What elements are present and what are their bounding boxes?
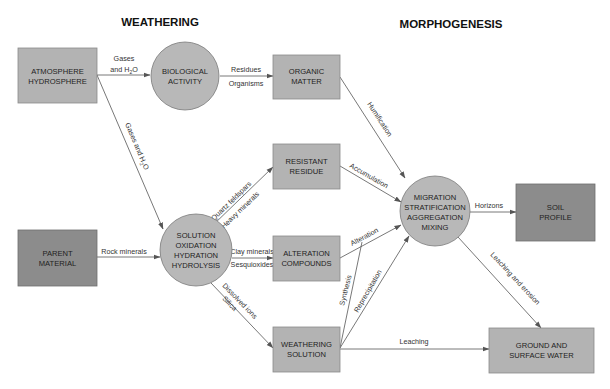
node-resistant-residue: RESISTANT RESIDUE <box>273 144 340 189</box>
svg-text:Gases: Gases <box>114 54 135 63</box>
svg-text:ORGANIC: ORGANIC <box>289 67 325 76</box>
svg-text:Humification: Humification <box>365 100 394 138</box>
node-parent-material: PARENT MATERIAL <box>18 230 97 286</box>
svg-text:ACTIVITY: ACTIVITY <box>168 77 202 86</box>
svg-text:SOIL: SOIL <box>547 203 564 212</box>
svg-text:WEATHERING: WEATHERING <box>281 340 332 349</box>
svg-text:SOLUTION: SOLUTION <box>287 350 326 359</box>
svg-text:Leaching: Leaching <box>399 337 428 346</box>
svg-text:PARENT: PARENT <box>42 249 73 258</box>
svg-text:and H2O: and H2O <box>110 65 138 75</box>
svg-text:HYDROSPHERE: HYDROSPHERE <box>28 77 87 86</box>
svg-text:PROFILE: PROFILE <box>539 213 572 222</box>
edge-solution-weathering-solution: Dissolved ions Silica <box>211 281 273 348</box>
node-morphogenesis-processes: MIGRATION STRATIFICATION AGGREGATION MIX… <box>400 176 470 246</box>
edge-resistant-migration: Accumulation <box>340 161 401 202</box>
svg-text:Sesquioxides: Sesquioxides <box>231 260 274 269</box>
edge-organic-migration: Humification <box>340 77 405 178</box>
svg-text:Residues: Residues <box>231 65 261 74</box>
weathering-title: WEATHERING <box>121 16 199 28</box>
svg-text:ATMOSPHERE: ATMOSPHERE <box>31 67 84 76</box>
node-ground-surface-water: GROUND AND SURFACE WATER <box>489 328 594 373</box>
svg-text:SOLUTION: SOLUTION <box>177 231 216 240</box>
svg-text:STRATIFICATION: STRATIFICATION <box>404 203 465 212</box>
svg-text:SURFACE WATER: SURFACE WATER <box>509 351 574 360</box>
svg-text:MATTER: MATTER <box>291 77 322 86</box>
node-weathering-solution: WEATHERING SOLUTION <box>273 327 340 372</box>
edge-migration-ground: Leaching and erosion <box>458 237 542 328</box>
svg-text:MIGRATION: MIGRATION <box>414 193 456 202</box>
node-soil-profile: SOIL PROFILE <box>516 184 595 241</box>
edge-solution-resistant: Quartz feldspars Heavy minerals <box>209 167 273 230</box>
edge-atmosphere-biological: Gases and H2O <box>97 54 150 75</box>
svg-text:Rock minerals: Rock minerals <box>101 247 147 256</box>
svg-text:MATERIAL: MATERIAL <box>39 259 76 268</box>
svg-text:Organisms: Organisms <box>229 79 264 88</box>
edge-alteration-migration: Alteration <box>340 225 401 258</box>
svg-text:Gases and H2O: Gases and H2O <box>122 121 151 172</box>
svg-text:Horizons: Horizons <box>475 201 504 210</box>
edge-parent-solution: Rock minerals <box>97 247 160 257</box>
svg-text:Accumulation: Accumulation <box>348 161 390 190</box>
node-biological-activity: BIOLOGICAL ACTIVITY <box>151 42 219 110</box>
node-atmosphere-hydrosphere: ATMOSPHERE HYDROSPHERE <box>18 48 97 103</box>
edge-solution-alteration: Clay minerals Sesquioxides <box>230 247 274 269</box>
svg-text:RESISTANT: RESISTANT <box>285 157 327 166</box>
morphogenesis-title: MORPHOGENESIS <box>400 18 503 30</box>
svg-text:RESIDUE: RESIDUE <box>290 167 324 176</box>
edge-atmosphere-solution: Gases and H2O <box>97 75 163 229</box>
svg-text:Clay minerals: Clay minerals <box>230 247 274 256</box>
svg-text:HYDRATION: HYDRATION <box>174 251 218 260</box>
node-weathering-processes: SOLUTION OXIDATION HYDRATION HYDROLYSIS <box>160 214 232 286</box>
weathering-morphogenesis-diagram: WEATHERING MORPHOGENESIS Gases and H2O G… <box>0 0 610 389</box>
node-alteration-compounds: ALTERATION COMPOUNDS <box>273 236 340 281</box>
svg-text:MIXING: MIXING <box>421 223 448 232</box>
edge-weathering-solution-ground: Leaching <box>340 337 489 349</box>
svg-text:OXIDATION: OXIDATION <box>175 241 216 250</box>
svg-text:HYDROLYSIS: HYDROLYSIS <box>172 261 220 270</box>
svg-text:AGGREGATION: AGGREGATION <box>407 213 463 222</box>
svg-text:Leaching and erosion: Leaching and erosion <box>489 250 542 306</box>
node-organic-matter: ORGANIC MATTER <box>273 55 340 99</box>
svg-text:GROUND AND: GROUND AND <box>516 341 568 350</box>
svg-text:ALTERATION: ALTERATION <box>283 249 330 258</box>
svg-text:Reprecipitation: Reprecipitation <box>352 268 384 314</box>
svg-text:BIOLOGICAL: BIOLOGICAL <box>162 67 208 76</box>
svg-text:COMPOUNDS: COMPOUNDS <box>281 259 331 268</box>
edge-migration-soil: Horizons <box>470 201 516 212</box>
edge-biological-organic: Residues Organisms <box>220 65 273 88</box>
